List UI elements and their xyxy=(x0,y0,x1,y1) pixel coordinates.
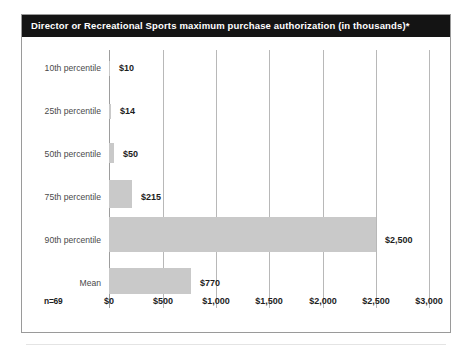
bar xyxy=(109,61,110,76)
bar xyxy=(109,143,114,163)
bar-row: 50th percentile$50 xyxy=(22,133,450,176)
plot-area: 10th percentile$1025th percentile$1450th… xyxy=(22,37,450,332)
bar-value-label: $10 xyxy=(119,63,134,73)
chart-container: Director or Recreational Sports maximum … xyxy=(21,14,451,333)
bar xyxy=(109,104,111,119)
bar-value-label: $14 xyxy=(120,106,135,116)
category-label: 75th percentile xyxy=(22,192,101,202)
x-tick-label: $0 xyxy=(104,296,114,306)
bar-row: 25th percentile$14 xyxy=(22,90,450,133)
category-label: 10th percentile xyxy=(22,63,101,73)
bar-row: 10th percentile$10 xyxy=(22,47,450,90)
bar-value-label: $2,500 xyxy=(385,235,413,245)
bottom-divider xyxy=(26,344,446,345)
x-axis: n=69 $0$500$1,000$1,500$2,000$2,500$3,00… xyxy=(22,284,450,332)
bar-row: 75th percentile$215 xyxy=(22,176,450,219)
bar-value-label: $50 xyxy=(123,149,138,159)
bar xyxy=(109,180,132,208)
category-label: 25th percentile xyxy=(22,106,101,116)
x-tick-label: $2,000 xyxy=(309,296,337,306)
sample-size-label: n=69 xyxy=(44,296,63,306)
bar xyxy=(109,217,376,252)
chart-title-bar: Director or Recreational Sports maximum … xyxy=(22,15,450,37)
category-label: 50th percentile xyxy=(22,149,101,159)
x-tick-label: $500 xyxy=(153,296,173,306)
chart-title: Director or Recreational Sports maximum … xyxy=(31,15,410,37)
bar-value-label: $215 xyxy=(141,192,161,202)
x-tick-label: $1,000 xyxy=(202,296,230,306)
x-tick-label: $1,500 xyxy=(255,296,283,306)
x-tick-label: $3,000 xyxy=(415,296,443,306)
bar-row: 90th percentile$2,500 xyxy=(22,219,450,262)
x-tick-label: $2,500 xyxy=(362,296,390,306)
category-label: 90th percentile xyxy=(22,235,101,245)
